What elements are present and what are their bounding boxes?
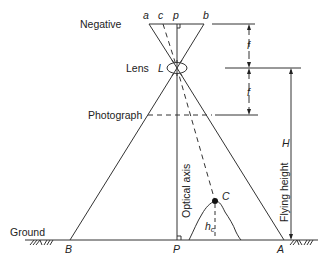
- label-ground: Ground: [10, 226, 45, 238]
- arrowhead-f-upper-top: [247, 24, 251, 30]
- ground-hatch-right: [290, 240, 313, 245]
- label-point-p: p: [172, 9, 179, 21]
- label-f-lower: f: [247, 86, 251, 98]
- aerial-photo-geometry-diagram: Negative Lens Photograph Ground a c p b …: [0, 0, 331, 262]
- label-point-a: a: [143, 9, 149, 21]
- arrowhead-f-lower-bottom: [247, 109, 251, 115]
- label-point-C: C: [222, 190, 230, 202]
- ground-hatch-left: [30, 240, 53, 245]
- label-negative: Negative: [80, 18, 122, 30]
- label-f-upper: f: [247, 39, 251, 51]
- arrowhead-H-bottom: [289, 234, 293, 240]
- label-flying-height: Flying height: [278, 162, 290, 222]
- arrowhead-f-lower-top: [247, 68, 251, 74]
- label-lens: Lens: [126, 62, 149, 74]
- label-hc-sub: c: [211, 225, 215, 234]
- label-hc: hc: [205, 220, 215, 234]
- label-point-L: L: [158, 62, 164, 74]
- arrowhead-f-upper-bottom: [247, 62, 251, 68]
- arrowhead-H-top: [289, 68, 293, 74]
- label-point-B: B: [65, 243, 72, 255]
- label-point-b: b: [203, 9, 209, 21]
- label-optical-axis: Optical axis: [180, 164, 192, 218]
- ray-lens-to-A: [177, 68, 284, 240]
- point-C-dot: [212, 198, 218, 204]
- label-point-A: A: [276, 243, 284, 255]
- ray-c-to-lens-dashed: [163, 24, 177, 68]
- label-point-P: P: [173, 243, 180, 255]
- label-H: H: [282, 137, 290, 149]
- label-point-c: c: [158, 9, 164, 21]
- right-angle-marker-P: [177, 236, 181, 240]
- label-photograph: Photograph: [88, 109, 142, 121]
- ray-lens-to-B: [70, 68, 177, 240]
